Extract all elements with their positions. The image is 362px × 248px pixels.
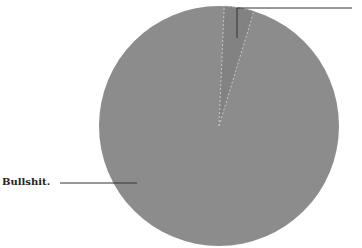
label-main-slice: Bullshit. (2, 176, 50, 187)
pie-chart (0, 0, 362, 248)
pie-slices (99, 6, 339, 246)
